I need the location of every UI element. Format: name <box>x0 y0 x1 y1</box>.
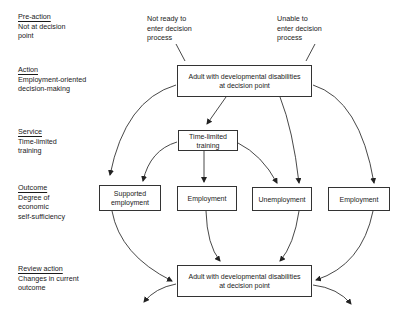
arrow-unemployment-review <box>280 211 299 261</box>
arrow-to-unemployment <box>280 97 299 183</box>
box-training: Time-limitedtraining <box>178 130 238 151</box>
arrow-employment-right-review <box>316 211 373 280</box>
arrow-training-supported <box>143 142 177 181</box>
note-connector <box>306 44 315 61</box>
arrow-to-training <box>207 97 226 124</box>
arrow-out-right <box>313 285 351 304</box>
box-top-decision: Adult with developmental disabilitiesat … <box>177 65 312 97</box>
box-line: at decision point <box>188 281 300 290</box>
arrow-to-employment-right <box>313 85 374 183</box>
arrow-employment-review <box>206 211 220 261</box>
box-supported-employment: Supportedemployment <box>99 185 161 211</box>
box-line: Supported <box>111 189 149 198</box>
box-line: Employment <box>340 195 379 204</box>
box-line: Adult with developmental disabilities <box>188 72 300 81</box>
box-line: at decision point <box>188 81 300 90</box>
note-connector <box>176 44 185 61</box>
box-line: Unemployment <box>258 195 305 204</box>
box-bottom-decision: Adult with developmental disabilitiesat … <box>177 265 312 297</box>
arrow-supported-review <box>112 211 172 281</box>
box-line: employment <box>111 198 149 207</box>
box-employment-mid: Employment <box>177 186 237 211</box>
arrow-training-unemployment <box>238 143 277 183</box>
box-unemployment: Unemployment <box>252 187 312 211</box>
arrow-out-left <box>144 284 176 302</box>
box-line: Employment <box>188 194 227 203</box>
box-line: Adult with developmental disabilities <box>188 272 300 281</box>
arrow-to-supported <box>110 85 176 175</box>
box-line: training <box>189 141 227 150</box>
box-employment-right: Employment <box>328 187 390 211</box>
box-line: Time-limited <box>189 132 227 141</box>
